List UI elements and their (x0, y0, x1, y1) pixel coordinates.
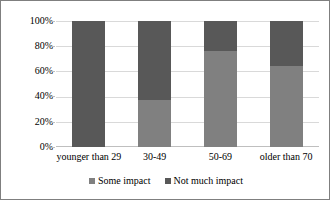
bar-segment-some-impact[interactable] (270, 66, 303, 147)
legend-label: Not much impact (174, 175, 243, 187)
y-axis-tick-label: 60% (7, 66, 53, 76)
bar-30-49[interactable] (138, 21, 171, 147)
y-axis-tick-label: 0% (7, 142, 53, 152)
bar-slot (56, 21, 122, 147)
legend-item-not-much-impact[interactable]: Not much impact (165, 175, 243, 187)
y-axis: 100% 80% 60% 40% 20% 0% (1, 1, 53, 202)
legend-label: Some impact (98, 175, 151, 187)
plot-area (56, 21, 319, 147)
x-axis: younger than 29 30-49 50-69 older than 7… (56, 150, 319, 166)
y-axis-tick-mark (51, 71, 55, 72)
y-axis-tick-label: 40% (7, 91, 53, 101)
bar-slot (188, 21, 254, 147)
bar-slot (122, 21, 188, 147)
y-axis-tick-label: 20% (7, 117, 53, 127)
y-axis-tick-mark (51, 46, 55, 47)
chart-legend: Some impact Not much impact (1, 175, 331, 187)
y-axis-tick-label: 80% (7, 41, 53, 51)
y-axis-tick-mark (51, 96, 55, 97)
x-axis-tick-label-50-69: 50-69 (188, 150, 254, 163)
bar-segment-some-impact[interactable] (204, 51, 237, 147)
bar-segment-not-much-impact[interactable] (72, 21, 105, 147)
y-axis-tick-mark (51, 21, 55, 22)
x-axis-tick-label-older-than-70: older than 70 (253, 150, 319, 163)
legend-swatch-icon (89, 178, 95, 184)
bar-younger-than-29[interactable] (72, 21, 105, 147)
y-axis-tick-mark (51, 147, 55, 148)
chart-figure: 100% 80% 60% 40% 20% 0% (0, 0, 330, 200)
bar-50-69[interactable] (204, 21, 237, 147)
legend-swatch-icon (165, 178, 171, 184)
x-axis-tick-label-younger-than-29: younger than 29 (56, 150, 122, 163)
legend-item-some-impact[interactable]: Some impact (89, 175, 151, 187)
y-axis-tick-mark (51, 122, 55, 123)
bar-segment-not-much-impact[interactable] (204, 21, 237, 51)
bar-segment-some-impact[interactable] (138, 100, 171, 147)
x-axis-tick-label-30-49: 30-49 (122, 150, 188, 163)
bar-slot (253, 21, 319, 147)
bar-segment-not-much-impact[interactable] (138, 21, 171, 100)
bar-older-than-70[interactable] (270, 21, 303, 147)
bar-segment-not-much-impact[interactable] (270, 21, 303, 66)
y-axis-tick-label: 100% (7, 16, 53, 26)
